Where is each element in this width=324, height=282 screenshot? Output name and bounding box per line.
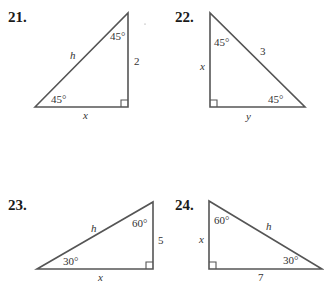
right-angle-marker	[210, 100, 217, 107]
right-angle-marker	[146, 262, 153, 269]
speck	[144, 23, 145, 24]
right-angle-marker	[209, 262, 216, 269]
triangle-24	[209, 201, 322, 269]
problem-number: 22.	[175, 9, 194, 25]
right-angle-marker	[121, 100, 128, 107]
triangle-23	[37, 202, 153, 269]
angle-label-bottom-left: 30°	[63, 255, 78, 267]
vertical-leg-label: 5	[158, 234, 164, 246]
problem-23: 23. 60° 30° h 5 x	[8, 197, 164, 282]
problem-number: 24.	[175, 197, 194, 213]
triangle-22	[210, 13, 305, 107]
hypotenuse-label: h	[266, 220, 272, 232]
angle-label-bottom-right: 45°	[268, 93, 283, 105]
triangle-21	[35, 13, 128, 107]
hypotenuse-label: h	[91, 222, 97, 234]
angle-label-bottom-left: 45°	[51, 93, 66, 105]
problem-number: 21.	[8, 9, 27, 25]
problem-number: 23.	[8, 197, 27, 213]
hypotenuse-label: h	[70, 49, 76, 61]
horizontal-leg-label: 7	[258, 271, 264, 282]
problem-22: 22. 45° 45° 3 x y	[175, 9, 305, 122]
horizontal-leg-label: y	[245, 110, 251, 122]
horizontal-leg-label: x	[82, 109, 88, 121]
angle-label-top: 45°	[110, 30, 125, 42]
vertical-leg-label: 2	[134, 55, 140, 67]
vertical-leg-label: x	[198, 233, 204, 245]
problem-24: 24. 60° 30° h x 7	[175, 197, 322, 282]
angle-label-top: 60°	[132, 217, 147, 229]
angle-label-top: 60°	[214, 214, 229, 226]
angle-label-top: 45°	[214, 36, 229, 48]
vertical-leg-label: x	[199, 60, 205, 72]
hypotenuse-label: 3	[260, 45, 266, 57]
angle-label-bottom-right: 30°	[283, 254, 298, 266]
problem-21: 21. 45° 45° h 2 x	[8, 9, 140, 121]
horizontal-leg-label: x	[97, 271, 103, 282]
exercise-figure: 21. 45° 45° h 2 x 22. 45° 45° 3 x y 23. …	[0, 0, 324, 282]
